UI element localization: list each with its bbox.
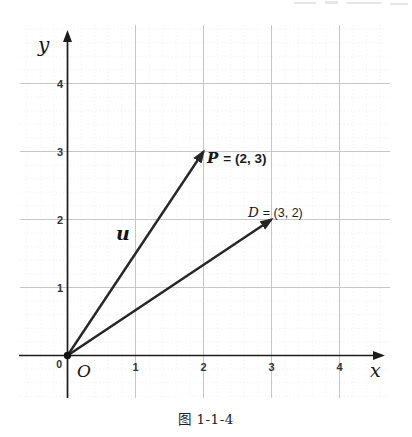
x-tick-4: 4 xyxy=(336,361,343,373)
origin-tick-label: 0 xyxy=(56,358,62,370)
header-fragment-mark xyxy=(347,2,381,4)
point-P-var: P xyxy=(206,149,219,167)
y-tick-4: 4 xyxy=(57,78,64,90)
origin-point xyxy=(64,352,71,359)
y-tick-3: 3 xyxy=(57,146,63,158)
origin-label: O xyxy=(77,361,91,381)
header-fragment-mark xyxy=(294,2,316,4)
x-tick-3: 3 xyxy=(268,361,274,373)
vectors-group xyxy=(68,152,272,356)
y-axis-label: y xyxy=(37,33,50,57)
y-tick-2: 2 xyxy=(57,214,63,226)
vector-u-label: u xyxy=(116,222,130,244)
x-tick-1: 1 xyxy=(132,361,138,373)
point-D-coords: = (3, 2) xyxy=(263,206,303,220)
figure-area: y x O 0 4 3 2 1 1 2 3 4 u P= (2, 3) D= (… xyxy=(0,0,412,437)
cropped-page-header-fragment xyxy=(294,0,408,6)
figure-caption: 图 1-1-4 xyxy=(0,408,412,428)
header-fragment-mark xyxy=(390,3,408,5)
x-tick-2: 2 xyxy=(200,361,206,373)
point-P-coords: = (2, 3) xyxy=(223,151,266,166)
header-fragment-mark xyxy=(325,1,338,4)
point-P-label: P= (2, 3) xyxy=(206,149,266,167)
point-D-label: D= (3, 2) xyxy=(247,204,303,220)
y-tick-1: 1 xyxy=(57,282,63,294)
point-D-var: D xyxy=(247,204,259,220)
x-axis-label: x xyxy=(370,359,381,381)
vector-plot-canvas: y x O 0 4 3 2 1 1 2 3 4 u P= (2, 3) D= (… xyxy=(0,0,412,408)
